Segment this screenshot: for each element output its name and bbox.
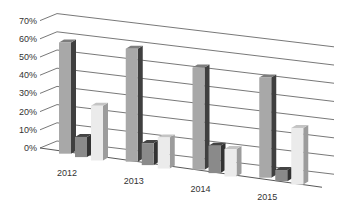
y-tick-label: 50% [19, 52, 37, 62]
bar-2015-series-1 [259, 74, 276, 177]
bar-2015-series-3 [291, 125, 308, 185]
gridline [57, 32, 334, 65]
y-tick-label: 70% [19, 16, 37, 26]
x-category-label: 2015 [257, 192, 277, 202]
y-tick-label: 20% [19, 107, 37, 117]
y-tick-label: 10% [19, 125, 37, 135]
bars [59, 39, 308, 184]
y-tick-label: 40% [19, 70, 37, 80]
gridline-connector [40, 105, 57, 112]
x-category-label: 2012 [57, 168, 77, 178]
bar-2012-series-1 [59, 39, 76, 153]
y-tick-label: 60% [19, 34, 37, 44]
gridline-connector [40, 68, 57, 75]
y-tick-label: 0% [24, 143, 37, 153]
bar-2015-series-2 [275, 167, 292, 181]
bar-2013-series-1 [126, 46, 143, 162]
bar-2014-series-1 [193, 65, 210, 170]
bar-2013-series-2 [142, 140, 159, 165]
gridline-connector [40, 141, 57, 148]
bar-chart-3d: 0%10%20%30%40%50%60%70% 2012201320142015 [0, 0, 343, 213]
gridlines [40, 14, 334, 188]
gridline-connector [40, 50, 57, 57]
y-axis-labels: 0%10%20%30%40%50%60%70% [19, 16, 37, 153]
bar-2014-series-2 [209, 143, 226, 173]
bar-2012-series-3 [91, 103, 108, 161]
bar-2014-series-3 [225, 146, 242, 176]
gridline [57, 14, 334, 47]
y-tick-label: 30% [19, 88, 37, 98]
gridline-connector [40, 14, 57, 21]
x-category-label: 2014 [190, 184, 210, 194]
gridline-connector [40, 32, 57, 39]
x-axis-labels: 2012201320142015 [57, 168, 277, 202]
gridline-connector [40, 86, 57, 93]
x-category-label: 2013 [124, 176, 144, 186]
bar-2012-series-2 [75, 134, 92, 157]
gridline-connector [40, 123, 57, 130]
bar-2013-series-3 [158, 134, 175, 168]
